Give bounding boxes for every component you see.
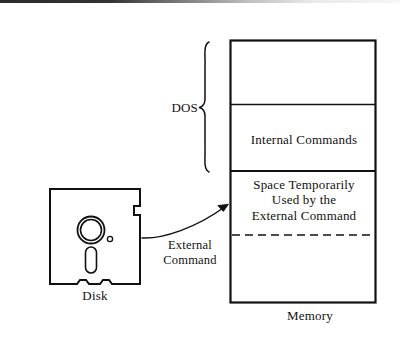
memory-cell-transient-space-label: Space Temporarily Used by the External C… — [232, 177, 376, 223]
dos-bracket-label: DOS — [152, 100, 198, 115]
external-command-arrow — [142, 206, 226, 238]
memory-cell-internal-commands-label: Internal Commands — [232, 132, 376, 147]
dos-brace — [200, 42, 210, 172]
figure-canvas: DOS Internal Commands Space Temporarily … — [0, 0, 400, 358]
floppy-hub-inner-ring — [81, 220, 102, 241]
external-command-arrow-label: External Command — [152, 238, 228, 268]
floppy-head-slot — [86, 247, 97, 273]
disk-caption: Disk — [55, 288, 135, 303]
memory-caption: Memory — [258, 308, 362, 323]
floppy-index-hole — [107, 236, 112, 241]
